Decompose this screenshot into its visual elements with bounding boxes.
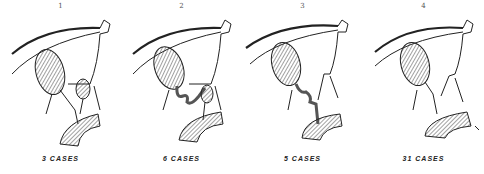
panel-number: 4 (363, 2, 484, 10)
case-count-caption: 6 CASES (121, 155, 242, 162)
gallbladder-illustration-1 (0, 14, 121, 149)
panel-number: 2 (121, 2, 242, 10)
gallbladder-illustration-2 (121, 14, 242, 149)
panel-1: 1 3 CASES (0, 0, 121, 174)
panel-number: 3 (242, 2, 363, 10)
case-count-caption: 5 CASES (242, 155, 363, 162)
panel-2: 2 6 CASES (121, 0, 242, 174)
panel-4: 4 31 CASES (363, 0, 484, 174)
gallbladder-illustration-3 (242, 14, 363, 149)
panel-3: 3 5 CASES (242, 0, 363, 174)
case-count-caption: 31 CASES (363, 155, 484, 162)
case-count-caption: 3 CASES (0, 155, 121, 162)
gallbladder-illustration-4 (363, 14, 484, 149)
panel-number: 1 (0, 2, 121, 10)
